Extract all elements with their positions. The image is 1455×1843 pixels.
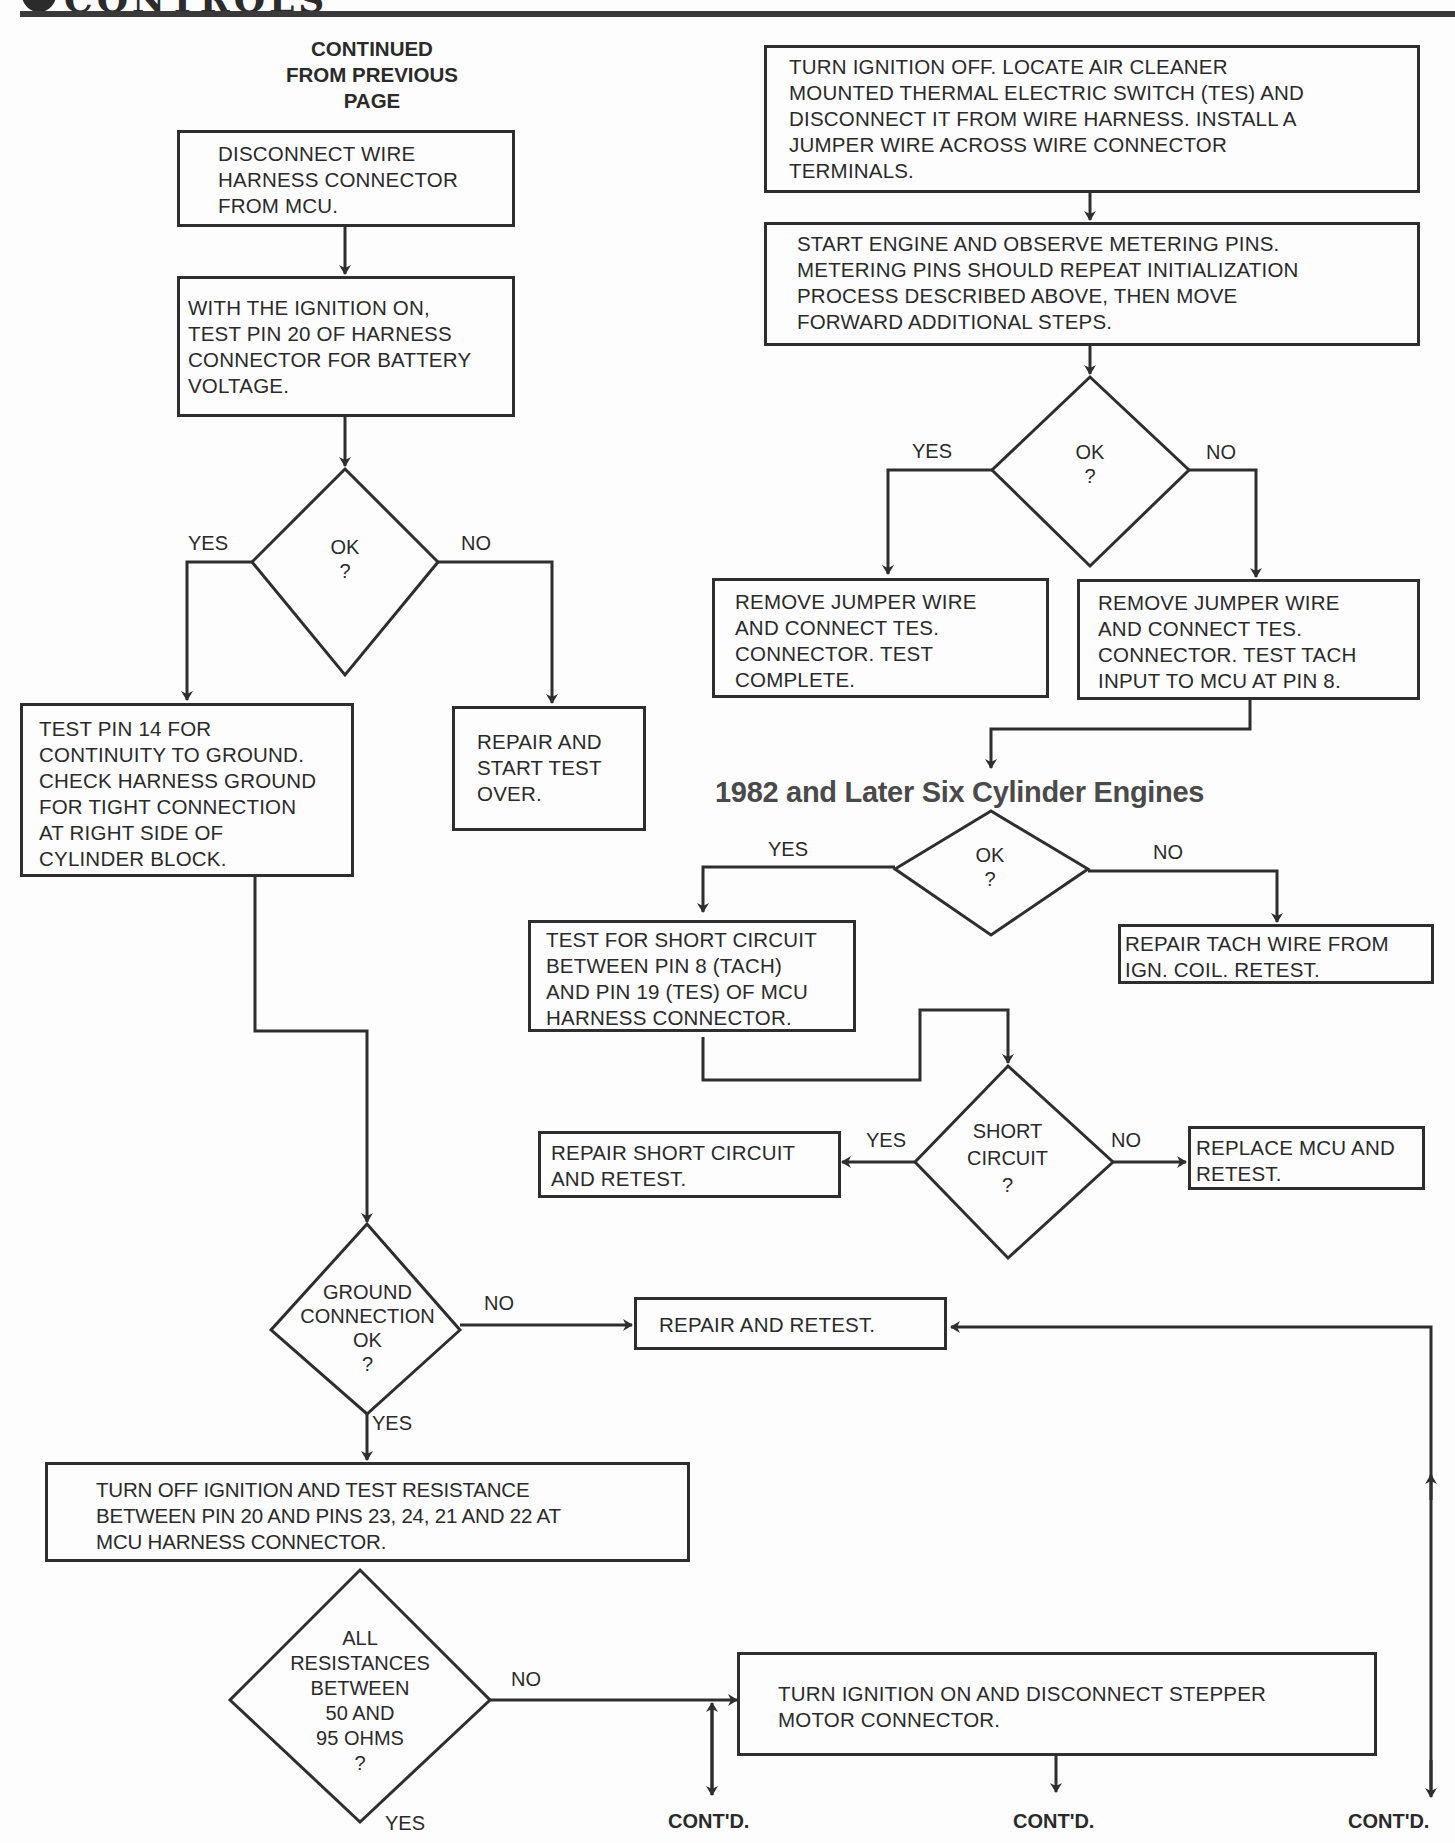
step-test-tach-input: REMOVE JUMPER WIRE AND CONNECT TES. CONN… [1077, 579, 1420, 700]
continued-label: CONT'D. [1348, 1810, 1429, 1833]
continued-from-previous-page: CONTINUED FROM PREVIOUS PAGE [262, 36, 482, 114]
label-yes: YES [912, 440, 952, 463]
decision-short-circuit-text: SHORT CIRCUIT ? [955, 1118, 1060, 1199]
label-no: NO [1111, 1129, 1141, 1152]
step-test-pin-20: WITH THE IGNITION ON, TEST PIN 20 OF HAR… [177, 276, 515, 417]
label-yes: YES [188, 532, 228, 555]
label-yes: YES [372, 1412, 412, 1435]
step-repair-and-retest: REPAIR AND RETEST. [634, 1297, 947, 1350]
label-yes: YES [768, 838, 808, 861]
step-replace-mcu: REPLACE MCU AND RETEST. [1188, 1126, 1425, 1190]
continued-label: CONT'D. [668, 1810, 749, 1833]
step-disconnect-stepper-motor: TURN IGNITION ON AND DISCONNECT STEPPER … [737, 1652, 1377, 1756]
label-no: NO [1206, 441, 1236, 464]
label-no: NO [461, 532, 491, 555]
step-install-jumper-wire: TURN IGNITION OFF. LOCATE AIR CLEANER MO… [764, 45, 1420, 193]
step-repair-tach-wire: REPAIR TACH WIRE FROM IGN. COIL. RETEST. [1118, 924, 1434, 984]
label-no: NO [511, 1668, 541, 1691]
step-test-short-circuit: TEST FOR SHORT CIRCUIT BETWEEN PIN 8 (TA… [528, 920, 856, 1032]
step-test-complete: REMOVE JUMPER WIRE AND CONNECT TES. CONN… [712, 578, 1049, 698]
decision-resistance-text: ALL RESISTANCES BETWEEN 50 AND 95 OHMS ? [270, 1626, 450, 1776]
step-repair-short-circuit: REPAIR SHORT CIRCUIT AND RETEST. [538, 1131, 841, 1198]
decision-ground-connection-text: GROUND CONNECTION OK ? [275, 1280, 460, 1376]
label-yes: YES [385, 1812, 425, 1835]
step-test-resistance: TURN OFF IGNITION AND TEST RESISTANCE BE… [45, 1462, 690, 1562]
section-heading: 1982 and Later Six Cylinder Engines [715, 776, 1204, 809]
step-observe-metering-pins: START ENGINE AND OBSERVE METERING PINS. … [764, 222, 1420, 346]
step-repair-start-over: REPAIR AND START TEST OVER. [452, 706, 646, 831]
decision-ok-1-text: OK ? [305, 535, 385, 583]
continued-label: CONT'D. [1013, 1810, 1094, 1833]
label-no: NO [1153, 841, 1183, 864]
decision-ok-3-text: OK ? [950, 843, 1030, 891]
step-disconnect-harness: DISCONNECT WIRE HARNESS CONNECTOR FROM M… [177, 130, 515, 227]
decision-ok-2-text: OK ? [1050, 440, 1130, 488]
label-no: NO [484, 1292, 514, 1315]
label-yes: YES [866, 1129, 906, 1152]
step-test-pin-14: TEST PIN 14 FOR CONTINUITY TO GROUND. CH… [20, 703, 354, 877]
